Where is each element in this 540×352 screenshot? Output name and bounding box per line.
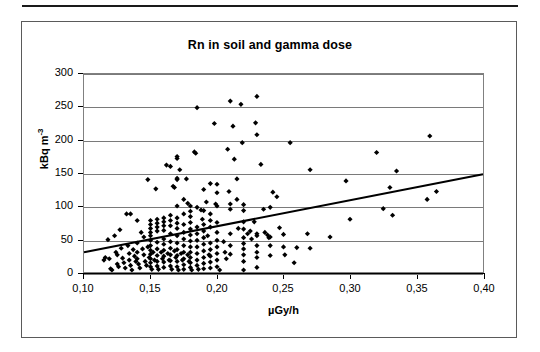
data-point-marker — [241, 267, 246, 272]
data-point-marker — [258, 162, 263, 167]
data-point-marker — [119, 246, 124, 251]
data-point-marker — [201, 242, 206, 247]
data-point-marker — [214, 230, 219, 235]
data-point-marker — [201, 248, 206, 253]
data-point-marker — [168, 246, 173, 251]
data-point-marker — [241, 235, 246, 240]
data-point-marker — [127, 251, 132, 256]
data-point-marker — [228, 98, 233, 103]
data-point-marker — [155, 246, 160, 251]
data-point-marker — [177, 167, 182, 172]
data-point-marker — [241, 202, 246, 207]
data-point-marker — [228, 252, 233, 257]
data-point-marker — [188, 232, 193, 237]
plot-area — [83, 73, 484, 273]
data-point-marker — [425, 197, 430, 202]
data-point-marker — [268, 205, 273, 210]
data-point-marker — [268, 243, 273, 248]
data-point-marker — [208, 260, 213, 265]
x-tick-label-0,15: 0,15 — [130, 282, 170, 294]
data-point-marker — [394, 168, 399, 173]
gridline-y-0 — [84, 274, 483, 275]
data-point-marker — [292, 260, 297, 265]
data-point-marker — [281, 232, 286, 237]
data-point-marker — [175, 215, 180, 220]
data-point-marker — [164, 163, 169, 168]
data-point-marker — [270, 190, 275, 195]
data-point-marker — [175, 259, 180, 264]
data-point-marker — [201, 261, 206, 266]
data-point-marker — [145, 177, 150, 182]
data-point-marker — [123, 265, 128, 270]
data-point-marker — [175, 203, 180, 208]
data-point-marker — [105, 237, 110, 242]
data-point-marker — [135, 218, 140, 223]
page-top-rule — [22, 5, 518, 7]
data-point-marker — [228, 231, 233, 236]
data-point-marker — [201, 255, 206, 260]
data-point-marker — [381, 206, 386, 211]
y-tick-label-50: 50 — [39, 233, 73, 245]
data-point-marker — [254, 265, 259, 270]
data-point-marker — [214, 190, 219, 195]
data-point-marker — [161, 242, 166, 247]
data-point-marker — [139, 230, 144, 235]
data-point-marker — [253, 120, 258, 125]
data-point-marker — [277, 225, 282, 230]
data-point-marker — [282, 252, 287, 257]
data-point-marker — [343, 178, 348, 183]
data-point-marker — [221, 239, 226, 244]
data-point-marker — [155, 253, 160, 258]
data-point-marker — [234, 197, 239, 202]
data-point-marker — [194, 251, 199, 256]
data-point-marker — [294, 245, 299, 250]
data-point-marker — [188, 209, 193, 214]
data-point-marker — [390, 213, 395, 218]
data-point-marker — [208, 211, 213, 216]
data-point-marker — [196, 267, 201, 272]
data-point-marker — [387, 185, 392, 190]
data-point-marker — [200, 217, 205, 222]
x-tick-label-0,35: 0,35 — [397, 282, 437, 294]
data-point-marker — [161, 228, 166, 233]
data-point-marker — [181, 211, 186, 216]
data-point-marker — [168, 239, 173, 244]
data-point-marker — [175, 221, 180, 226]
data-point-marker — [234, 176, 239, 181]
data-point-marker — [241, 246, 246, 251]
data-point-marker — [201, 266, 206, 271]
data-point-marker — [236, 226, 241, 231]
x-tick-label-0,10: 0,10 — [63, 282, 103, 294]
data-point-marker — [208, 218, 213, 223]
data-point-marker — [305, 231, 310, 236]
data-point-marker — [288, 140, 293, 145]
data-point-marker — [274, 194, 279, 199]
data-point-marker — [208, 240, 213, 245]
data-point-marker — [214, 238, 219, 243]
y-tick-label-150: 150 — [39, 166, 73, 178]
trend-line — [84, 174, 483, 252]
y-tick-label-200: 200 — [39, 133, 73, 145]
data-point-marker — [254, 250, 259, 255]
data-point-marker — [214, 251, 219, 256]
chart-title: Rn in soil and gamma dose — [22, 38, 518, 52]
data-point-marker — [135, 250, 140, 255]
data-point-marker — [181, 236, 186, 241]
data-point-marker — [194, 258, 199, 263]
data-point-marker — [161, 265, 166, 270]
x-tick-label-0,30: 0,30 — [330, 282, 370, 294]
x-axis-title: µGy/h — [83, 304, 484, 316]
data-point-marker — [254, 132, 259, 137]
data-point-marker — [201, 222, 206, 227]
data-point-marker — [214, 244, 219, 249]
y-tick-label-250: 250 — [39, 99, 73, 111]
data-point-marker — [434, 189, 439, 194]
data-point-marker — [261, 207, 266, 212]
data-point-marker — [168, 164, 173, 169]
data-point-marker — [241, 227, 246, 232]
data-point-marker — [204, 199, 209, 204]
data-point-marker — [254, 243, 259, 248]
data-point-marker — [228, 243, 233, 248]
data-point-marker — [153, 186, 158, 191]
data-point-marker — [241, 252, 246, 257]
